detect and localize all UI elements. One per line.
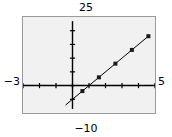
x-axis-max-label: 5 <box>158 76 172 87</box>
y-axis-max-label: 25 <box>0 2 172 13</box>
x-axis-min-label: −3 <box>0 76 20 87</box>
y-axis <box>70 21 75 109</box>
plot-area <box>22 16 156 114</box>
y-axis-min-label: −10 <box>0 123 172 134</box>
chart-figure: 25 −3 5 −10 <box>0 0 172 137</box>
plot-canvas <box>23 17 155 113</box>
data-line <box>66 36 148 105</box>
